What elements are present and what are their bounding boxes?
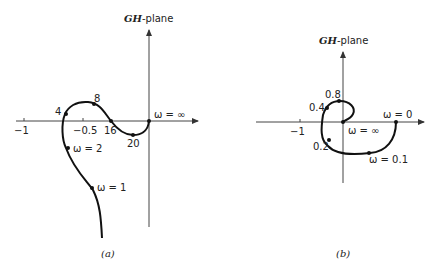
caption-a: (a) [101,248,115,259]
tick-label-minus1-b: −1 [290,126,305,137]
panel-b: GH-plane −1 ω = 0 ω = ∞ 0.8 0.4 0.2 ω = … [256,35,424,259]
label-w-inf-b: ω = ∞ [348,125,379,136]
point-w-inf-b [341,120,345,124]
label-w0-b: ω = 0 [383,109,412,120]
label-w-inf-a: ω = ∞ [154,109,185,120]
tick-label-minus05-a: −0.5 [73,125,97,136]
label-04-b: 0.4 [309,102,325,113]
point-w1-a [90,186,94,190]
panel-a: GH-plane −1 −0.5 ω = ∞ 4 8 16 20 ω = 2 ω… [14,13,198,259]
label-w1-a: ω = 1 [97,182,126,193]
label-8-a: 8 [94,93,100,104]
label-20-a: 20 [127,138,140,149]
point-w2-a [66,146,70,150]
point-w0-b [394,120,398,124]
label-02-b: 0.2 [313,141,329,152]
nyquist-curve-a [62,102,149,238]
label-4-a: 4 [55,106,61,117]
point-20-a [131,133,135,137]
label-16-a: 16 [104,125,117,136]
nyquist-diagrams: GH-plane −1 −0.5 ω = ∞ 4 8 16 20 ω = 2 ω… [0,0,434,273]
point-04-b [325,106,329,110]
point-4-a [64,112,68,116]
tick-label-minus1-a: −1 [14,125,29,136]
label-08-b: 0.8 [325,89,341,100]
point-16-a [109,119,113,123]
plane-title-b: GH-plane [319,35,368,46]
caption-b: (b) [336,248,350,259]
point-w-inf-a [147,119,151,123]
plane-title-a: GH-plane [124,13,173,24]
label-w2-a: ω = 2 [73,143,102,154]
label-w01-b: ω = 0.1 [369,154,408,165]
